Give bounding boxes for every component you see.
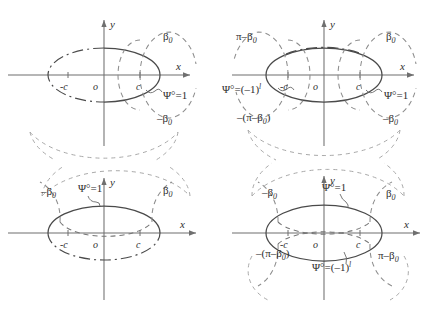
focus-right-label: c (356, 81, 361, 92)
label-psi-equals-1: Ψ°=1 (384, 89, 408, 101)
psi-leader (88, 196, 100, 206)
panel-top-right: x y o c -c π–β0 β0 Ψ°=(–1)l Ψ°=1 –(π–β0)… (222, 18, 416, 160)
x-axis-arrow (407, 72, 414, 77)
y-axis-arrow (321, 20, 326, 27)
auxiliary-ellipse-lower-b (30, 132, 55, 160)
x-axis-label: x (175, 60, 181, 72)
focus-left-label: -c (60, 81, 68, 92)
label-psi-equals-1: Ψ°=1 (163, 89, 187, 101)
label-pi-minus-beta0: π–β0 (236, 30, 257, 45)
panel-bottom-left: x y o c -c –β0 Ψ°=1 β0 (8, 166, 196, 300)
figure-canvas: x y o c -c β0 Ψ°=1 –β0 (0, 0, 444, 316)
focus-right-label: c (136, 81, 141, 92)
origin-label: o (313, 239, 318, 250)
label-beta0-right: β0 (386, 187, 396, 202)
x-axis-label: x (399, 60, 405, 72)
label-neg-pi-minus-beta0: –(π–β0) (236, 111, 271, 126)
label-psi-minus-one-l: Ψ°=(–1)l (312, 260, 351, 274)
origin-label: o (93, 239, 98, 250)
origin-label: o (313, 81, 318, 92)
auxiliary-ellipse-lower-right (390, 256, 408, 300)
focus-right-label: c (356, 239, 361, 250)
label-beta0-upper: β0 (386, 30, 396, 45)
x-axis-label: x (403, 218, 409, 230)
inner-dashed-arc (60, 222, 152, 236)
y-axis-label: y (109, 18, 115, 30)
label-neg-beta0-left: –β0 (261, 186, 277, 201)
focus-right-label: c (136, 239, 141, 250)
x-axis-label: x (179, 218, 185, 230)
beta0-arc-right (152, 182, 172, 222)
label-neg-beta0-lower: –β0 (156, 112, 172, 127)
y-axis-label: y (329, 18, 335, 30)
focus-left-label: -c (280, 81, 288, 92)
focus-left-label: -c (60, 239, 68, 250)
label-beta0-right: β0 (163, 184, 173, 199)
label-psi-equals-1: Ψ°=1 (78, 182, 102, 194)
label-pi-minus-beta0: π–β0 (378, 249, 399, 264)
x-axis-arrow (183, 72, 190, 77)
label-psi-minus-one-l: Ψ°=(–1)l (222, 82, 261, 96)
label-neg-beta0-lower: –β0 (382, 112, 398, 127)
y-axis-label: y (109, 176, 115, 188)
four-panel-ellipse-diagram: x y o c -c β0 Ψ°=1 –β0 (0, 0, 444, 316)
panel-bottom-right: x y o c -c –β0 Ψ°=1 β0 –(π–β0) Ψ°=(–1)l … (232, 163, 420, 300)
origin-label: o (93, 81, 98, 92)
y-axis-arrow (101, 20, 106, 27)
psi-right-leader (366, 89, 382, 93)
auxiliary-ellipse-lower-left (248, 256, 268, 300)
panel-top-left: x y o c -c β0 Ψ°=1 –β0 (8, 18, 196, 160)
label-psi-equals-1: Ψ°=1 (322, 181, 346, 193)
auxiliary-ellipse-lower-c (376, 130, 400, 160)
x-axis-arrow (413, 230, 420, 235)
auxiliary-ellipse-lower-b (248, 130, 276, 160)
label-neg-beta0-left: –β0 (40, 185, 56, 200)
x-axis-arrow (189, 230, 196, 235)
